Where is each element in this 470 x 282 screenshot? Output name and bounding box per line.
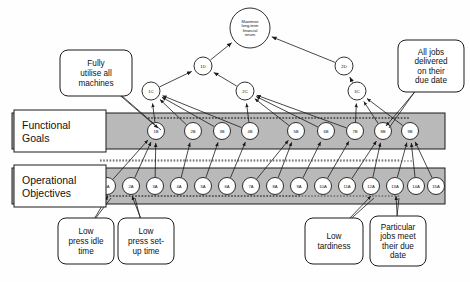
edge-2C-to-1D [214,72,237,86]
node-label: 4B [247,129,252,134]
band-label-box [14,110,106,152]
callouts-layer: Fullyutilise allmachinesAll jobsdelivere… [58,40,464,266]
c-node-3C[interactable]: 3C [348,82,366,100]
node-label: 5A [200,184,205,189]
node-label: 10A [319,184,327,189]
c-node-1C[interactable]: 1C [142,82,160,100]
goal-node-4B[interactable]: 4B [242,123,259,140]
edge-2D-to-apex [272,37,335,63]
band-label-line2: Objectives [22,187,71,199]
goal-node-3B[interactable]: 3B [214,123,231,140]
d-node-1D[interactable]: 1D [194,57,212,75]
node-label: 1B [153,129,158,134]
callout-text-line: Low [78,227,93,236]
objective-node-9A[interactable]: 9A [291,178,308,195]
goal-node-5B[interactable]: 5B [288,123,305,140]
callout-text-line: utilise all [80,69,112,78]
callout-text-line: All jobs [418,48,444,57]
band-label-layer: FunctionalGoalsOperationalObjectives [14,110,106,207]
node-label: 9B [407,129,412,134]
node-label: 11A [343,184,350,189]
node-label: 2A [128,184,133,189]
node-label: 3C [354,89,359,94]
edges-layer [113,37,432,179]
objective-node-3A[interactable]: 3A [147,178,164,195]
callout-text-line: date [390,251,406,260]
goal-node-1B[interactable]: 1B [148,123,165,140]
band-label-functional-goals: FunctionalGoals [14,110,106,152]
callout-text-line: delivered [414,57,448,66]
node-label: 3B [219,129,224,134]
objective-node-7A[interactable]: 7A [243,178,260,195]
node-label: 15A [432,184,440,189]
nodes-layer: 1A2A3A4A5A6A7A8A9A10A11A12A13A14A15A1B2B… [99,8,445,195]
objective-node-6A[interactable]: 6A [219,178,236,195]
node-label: 7B [352,129,357,134]
band-label-box [14,165,106,207]
callout-text-line: up time [133,247,160,256]
callout-text-line: machines [78,79,113,88]
apex-node[interactable]: Maximiselong-termfinancialreturn [230,8,270,48]
node-label: 6B [323,129,328,134]
node-label: 8B [380,129,385,134]
callout-text-line: jobs meet [379,232,416,241]
goal-node-7B[interactable]: 7B [347,123,364,140]
node-label: 12A [367,184,375,189]
objective-node-2A[interactable]: 2A [123,178,140,195]
callout-text-line: Low [138,227,153,236]
objective-node-11A[interactable]: 11A [339,178,356,195]
objective-node-13A[interactable]: 13A [387,178,404,195]
c-node-2C[interactable]: 2C [236,82,254,100]
node-label: 9A [296,184,301,189]
objective-node-5A[interactable]: 5A [195,178,212,195]
callout-text-line: press set- [128,237,164,246]
edge-1C-to-1D [160,71,192,86]
callout-low-tardiness[interactable]: Lowtardiness [305,196,374,264]
band-label-line2: Goals [22,132,49,144]
callout-text-line: press idle [68,237,103,246]
callout-text-line: their due [382,242,414,251]
goal-node-6B[interactable]: 6B [318,123,335,140]
goal-node-2B[interactable]: 2B [185,123,202,140]
node-label: 3A [152,184,157,189]
node-label: 7A [248,184,253,189]
edge-1D-to-apex [210,43,231,60]
objective-node-10A[interactable]: 10A [315,178,332,195]
objective-node-12A[interactable]: 12A [363,178,380,195]
node-label: 4A [176,184,181,189]
callout-text-line: Particular [381,223,416,232]
objective-node-14A[interactable]: 14A [408,178,425,195]
node-label: 1C [148,89,153,94]
edge-3C-to-2D [350,77,353,82]
objective-node-15A[interactable]: 15A [428,178,445,195]
node-label: 1D [200,64,205,69]
node-label: 6A [224,184,229,189]
objective-node-8A[interactable]: 8A [267,178,284,195]
band-label-operational-objectives: OperationalObjectives [14,165,106,207]
d-node-2D[interactable]: 2D [335,57,353,75]
callout-particular-jobs[interactable]: Particularjobs meettheir duedate [370,196,426,266]
goal-hierarchy-svg: 1A2A3A4A5A6A7A8A9A10A11A12A13A14A15A1B2B… [0,0,470,282]
callout-text-line: Low [326,232,341,241]
objective-node-4A[interactable]: 4A [171,178,188,195]
node-label: 2C [242,89,247,94]
node-label: 2D [341,64,346,69]
callout-text-line: time [78,247,94,256]
band-label-line1: Operational [22,174,76,186]
diagram-canvas: 1A2A3A4A5A6A7A8A9A10A11A12A13A14A15A1B2B… [0,0,470,282]
goal-node-9B[interactable]: 9B [402,123,419,140]
callout-text-line: due date [415,76,447,85]
callout-text-line: tardiness [317,242,350,251]
node-label: 13A [391,184,399,189]
callout-text-line: Fully [87,59,105,68]
node-label: 8A [272,184,277,189]
node-label: 2B [190,129,195,134]
node-label: 5B [293,129,298,134]
callout-low-setup[interactable]: Lowpress set-up time [118,196,174,264]
callout-text-line: on their [417,67,445,76]
apex-label-line: return [245,32,255,37]
node-label: 14A [412,184,420,189]
goal-node-8B[interactable]: 8B [375,123,392,140]
band-label-line1: Functional [22,119,70,131]
